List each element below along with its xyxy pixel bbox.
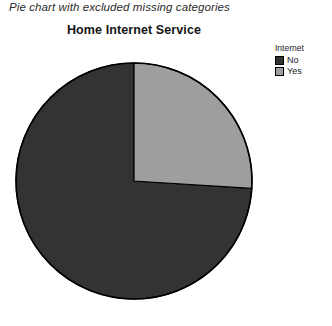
pie-chart [13,60,257,306]
figure-caption: Pie chart with excluded missing categori… [9,1,230,13]
figure-container: Pie chart with excluded missing categori… [0,0,332,326]
legend-swatch-no [275,56,284,65]
legend-swatch-yes [275,67,284,76]
legend-item-no[interactable]: No [275,55,331,66]
pie-slices [16,63,252,299]
legend: Internet No Yes [275,43,331,77]
legend-title: Internet [275,43,331,54]
chart-title: Home Internet Service [0,23,268,37]
legend-item-yes[interactable]: Yes [275,66,331,77]
pie-slice-yes[interactable] [134,63,252,188]
legend-label-yes: Yes [287,66,302,77]
legend-label-no: No [287,55,299,66]
pie-chart-svg [13,60,257,306]
